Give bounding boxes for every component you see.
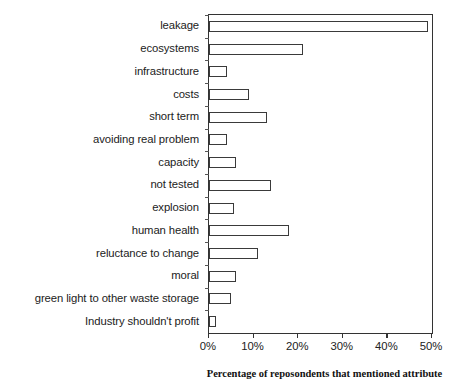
x-axis-tick-label: 0% bbox=[188, 340, 228, 352]
y-axis-tick bbox=[205, 310, 209, 311]
category-label: not tested bbox=[22, 173, 204, 196]
x-axis-ticks bbox=[208, 333, 431, 339]
bar-row bbox=[209, 129, 432, 152]
x-axis-tick bbox=[431, 333, 432, 338]
bar-row bbox=[209, 83, 432, 106]
bar bbox=[209, 44, 303, 55]
bar bbox=[209, 112, 267, 123]
bar-row bbox=[209, 151, 432, 174]
y-axis-tick bbox=[205, 129, 209, 130]
bar bbox=[209, 271, 236, 282]
x-axis-tick-label: 30% bbox=[322, 340, 362, 352]
bar-row bbox=[209, 197, 432, 220]
category-label: short term bbox=[22, 105, 204, 128]
bar-row bbox=[209, 242, 432, 265]
category-label: infrastructure bbox=[22, 59, 204, 82]
bar-row bbox=[209, 15, 432, 38]
clipped-title-strip bbox=[55, 0, 340, 6]
y-axis-tick bbox=[205, 106, 209, 107]
category-label: ecosystems bbox=[22, 37, 204, 60]
category-label: reluctance to change bbox=[22, 241, 204, 264]
x-axis-tick-label: 20% bbox=[277, 340, 317, 352]
x-axis-tick-labels: 0%10%20%30%40%50% bbox=[188, 340, 451, 356]
y-axis-tick bbox=[205, 265, 209, 266]
category-label: capacity bbox=[22, 150, 204, 173]
y-axis-tick bbox=[205, 15, 209, 16]
y-axis-tick bbox=[205, 197, 209, 198]
x-axis-tick bbox=[208, 333, 209, 338]
bar-row bbox=[209, 219, 432, 242]
bar bbox=[209, 316, 216, 327]
bar-series bbox=[209, 15, 432, 333]
bar bbox=[209, 180, 271, 191]
x-axis-tick bbox=[253, 333, 254, 338]
category-axis-labels: leakageecosystemsinfrastructurecostsshor… bbox=[22, 14, 204, 332]
x-axis-tick-label: 40% bbox=[366, 340, 406, 352]
y-axis-tick bbox=[205, 288, 209, 289]
bar-row bbox=[209, 288, 432, 311]
category-label: costs bbox=[22, 82, 204, 105]
x-axis-title: Percentage of reposondents that mentione… bbox=[190, 368, 459, 379]
bar bbox=[209, 248, 258, 259]
bar-row bbox=[209, 310, 432, 333]
bar-row bbox=[209, 38, 432, 61]
bar bbox=[209, 134, 227, 145]
y-axis-tick bbox=[205, 219, 209, 220]
bar bbox=[209, 293, 231, 304]
x-axis-tick-label: 10% bbox=[233, 340, 273, 352]
y-axis-tick bbox=[205, 151, 209, 152]
plot-area bbox=[208, 14, 433, 334]
bar bbox=[209, 21, 428, 32]
bar bbox=[209, 225, 289, 236]
x-axis-tick bbox=[297, 333, 298, 338]
category-label: avoiding real problem bbox=[22, 128, 204, 151]
bar-row bbox=[209, 60, 432, 83]
category-label: green light to other waste storage bbox=[22, 287, 204, 310]
bar-chart-figure: Negative attribute leakageecosystemsinfr… bbox=[0, 0, 459, 391]
category-label: leakage bbox=[22, 14, 204, 37]
x-axis-tick bbox=[386, 333, 387, 338]
category-label: explosion bbox=[22, 196, 204, 219]
y-axis-tick bbox=[205, 174, 209, 175]
bar bbox=[209, 89, 249, 100]
bar-row bbox=[209, 265, 432, 288]
category-label: human health bbox=[22, 218, 204, 241]
bar-row bbox=[209, 106, 432, 129]
bar bbox=[209, 203, 234, 214]
x-axis-tick-label: 50% bbox=[411, 340, 451, 352]
bar bbox=[209, 157, 236, 168]
y-axis-tick bbox=[205, 242, 209, 243]
y-axis-tick bbox=[205, 83, 209, 84]
y-axis-tick bbox=[205, 38, 209, 39]
y-axis-tick bbox=[205, 60, 209, 61]
category-label: Industry shouldn't profit bbox=[22, 309, 204, 332]
category-label: moral bbox=[22, 264, 204, 287]
x-axis-tick bbox=[342, 333, 343, 338]
bar-row bbox=[209, 174, 432, 197]
bar bbox=[209, 66, 227, 77]
